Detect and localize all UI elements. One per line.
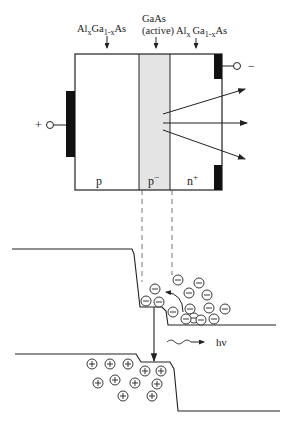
negative-sign: − [248, 59, 255, 73]
positive-terminal [47, 122, 54, 129]
n-contact-top [214, 54, 222, 79]
electron-icon [204, 303, 214, 313]
doping-label-p: p [96, 174, 102, 188]
electron-icon [141, 296, 151, 306]
hole-icon [123, 359, 133, 369]
electron-icon [168, 307, 178, 317]
hole-icon [130, 378, 140, 388]
svg-text:(active): (active) [142, 25, 175, 37]
svg-text:GaAs: GaAs [142, 13, 166, 24]
photon-label: hν [216, 336, 227, 348]
electron-icon [173, 275, 183, 285]
hole-icon [93, 378, 103, 388]
doping-label-n-plus: n+ [187, 172, 198, 188]
photon-emission: hν [167, 336, 227, 348]
electron-icon [209, 314, 219, 324]
hole-icon [105, 359, 115, 369]
holes [87, 359, 166, 401]
label-left-layer: AlxGa1-xAs [77, 23, 126, 37]
hole-icon [156, 366, 166, 376]
positive-sign: + [35, 118, 42, 132]
hole-icon [87, 359, 97, 369]
device-structure: + − p p− n+ [35, 54, 255, 190]
electron-icon [150, 284, 160, 294]
projection-lines [142, 190, 172, 282]
conduction-band [12, 249, 276, 325]
hole-icon [110, 375, 120, 385]
electron-icon [181, 314, 191, 324]
label-active-layer: GaAs (active) [142, 13, 175, 37]
electron-icon [194, 278, 204, 288]
electron-icon [202, 290, 212, 300]
svg-text:AlxGa1-xAs: AlxGa1-xAs [176, 25, 227, 39]
hole-icon [152, 379, 162, 389]
negative-terminal [234, 63, 241, 70]
n-contact-bottom [214, 165, 222, 190]
hole-icon [118, 391, 128, 401]
hole-icon [140, 366, 150, 376]
electron-icon [154, 297, 164, 307]
active-layer-region [139, 54, 170, 190]
heterostructure-diagram: AlxGa1-xAs GaAs (active) AlxGa1-xAs + − [0, 0, 289, 429]
electron-icon [185, 304, 195, 314]
svg-text:AlxGa1-xAs: AlxGa1-xAs [77, 23, 126, 37]
photon-wave-icon [167, 340, 191, 344]
electron-icon [220, 304, 230, 314]
label-pointer-arrows [107, 36, 196, 48]
electron-icon [184, 288, 194, 298]
hole-icon [147, 391, 157, 401]
label-right-layer: AlxGa1-xAs [176, 25, 227, 39]
emission-arrows [163, 89, 247, 159]
valence-band [15, 354, 280, 411]
p-contact [66, 91, 75, 157]
electron-icon [196, 315, 206, 325]
